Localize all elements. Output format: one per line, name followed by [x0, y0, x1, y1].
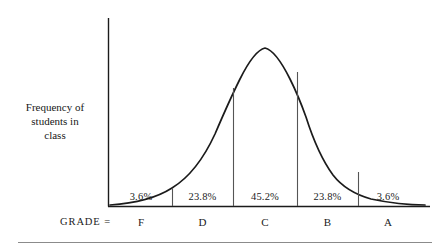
grade-axis-prefix: GRADE = [60, 216, 111, 227]
grade-letter-b: B [297, 216, 358, 228]
normal-distribution-curve [110, 48, 425, 205]
grade-letter-f: F [110, 216, 172, 228]
percent-label-a: 3.6% [358, 191, 418, 203]
percent-label-d: 23.8% [172, 191, 233, 203]
grade-letter-c: C [233, 216, 297, 228]
grade-letter-d: D [172, 216, 233, 228]
percent-label-b: 23.8% [297, 191, 358, 203]
percent-label-f: 3.6% [110, 191, 172, 203]
figure-canvas: Frequency of students in class 3.6% 23.8… [0, 0, 443, 251]
bottom-horizontal-rule [18, 242, 432, 243]
grade-letter-a: A [358, 216, 418, 228]
percent-label-c: 45.2% [233, 191, 297, 203]
bell-curve-plot [0, 0, 443, 251]
